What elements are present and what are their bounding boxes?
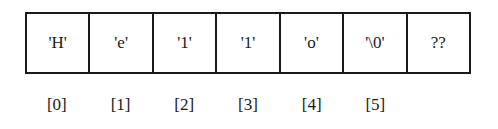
char-array: 'H' 'e' '1' '1' 'o' '\0' ?? xyxy=(25,12,471,74)
index-label-2: [2] xyxy=(152,92,216,118)
array-cell-4: 'o' xyxy=(281,14,344,72)
array-cell-2: '1' xyxy=(154,14,217,72)
index-label-4: [4] xyxy=(280,92,344,118)
index-label-0: [0] xyxy=(25,92,89,118)
array-cell-6: ?? xyxy=(408,14,469,72)
array-cell-0: 'H' xyxy=(27,14,90,72)
array-cell-5: '\0' xyxy=(344,14,407,72)
array-cell-1: 'e' xyxy=(90,14,153,72)
index-label-1: [1] xyxy=(89,92,153,118)
index-label-5: [5] xyxy=(344,92,408,118)
index-labels: [0] [1] [2] [3] [4] [5] xyxy=(25,92,471,118)
index-label-3: [3] xyxy=(216,92,280,118)
array-cell-3: '1' xyxy=(217,14,280,72)
